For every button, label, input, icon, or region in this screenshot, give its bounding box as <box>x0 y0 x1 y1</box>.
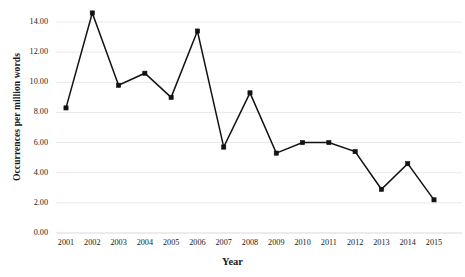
y-tick-label: 8.00 <box>14 107 48 116</box>
y-tick-label: 0.00 <box>14 228 48 237</box>
data-point-marker <box>432 198 436 202</box>
data-point-marker <box>143 71 147 75</box>
data-point-marker <box>116 83 120 87</box>
y-tick-label: 4.00 <box>14 168 48 177</box>
y-tick-label: 12.00 <box>14 47 48 56</box>
data-point-marker <box>274 151 278 155</box>
data-point-marker <box>300 140 304 144</box>
data-point-marker <box>222 145 226 149</box>
data-point-marker <box>90 11 94 15</box>
data-point-marker <box>353 150 357 154</box>
data-point-marker <box>195 29 199 33</box>
gridlines <box>56 22 462 233</box>
data-point-marker <box>327 140 331 144</box>
line-chart: Occurrences per million words 0.002.004.… <box>0 0 465 277</box>
data-point-marker <box>379 187 383 191</box>
y-tick-label: 10.00 <box>14 77 48 86</box>
data-series <box>64 11 436 202</box>
y-tick-label: 2.00 <box>14 198 48 207</box>
y-tick-label: 14.00 <box>14 17 48 26</box>
data-point-marker <box>406 162 410 166</box>
y-tick-label: 6.00 <box>14 138 48 147</box>
series-line <box>66 13 434 200</box>
x-axis-title: Year <box>0 256 465 267</box>
data-point-marker <box>169 95 173 99</box>
data-point-marker <box>64 106 68 110</box>
data-point-marker <box>248 91 252 95</box>
x-tick-label: 2015 <box>417 238 451 247</box>
plot-area <box>0 0 465 277</box>
